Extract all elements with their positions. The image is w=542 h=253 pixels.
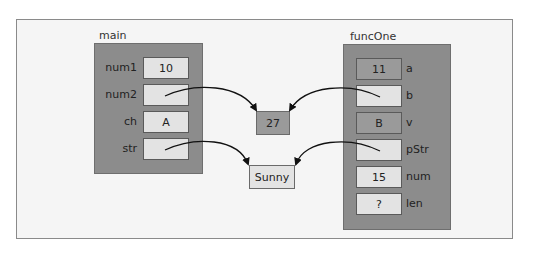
pointer-arrows (0, 0, 542, 253)
arrow-num2-to-27 (165, 87, 256, 110)
arrow-pstr-to-sunny (296, 142, 380, 164)
arrow-b-to-27 (290, 88, 380, 110)
arrow-str-to-sunny (165, 141, 248, 164)
